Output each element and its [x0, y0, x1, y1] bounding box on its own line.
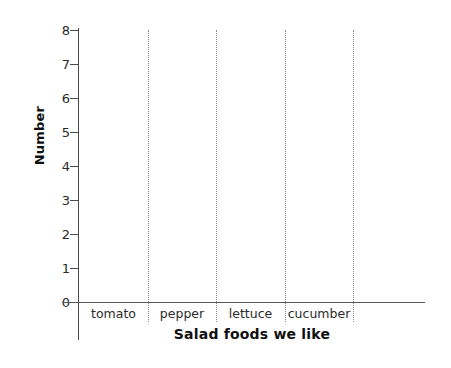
x-category-label-pepper: pepper [148, 305, 216, 323]
y-tick-7 [70, 64, 79, 65]
y-tick-label-8: 8 [48, 24, 70, 37]
y-tick-2 [70, 234, 79, 235]
y-tick-5 [70, 132, 79, 133]
gridline-1 [148, 30, 149, 322]
y-tick-label-1: 1 [48, 262, 70, 275]
y-tick-label-3: 3 [48, 194, 70, 207]
y-axis-line [78, 28, 79, 340]
y-tick-3 [70, 200, 79, 201]
y-tick-label-2: 2 [48, 228, 70, 241]
x-category-label-tomato: tomato [79, 305, 148, 323]
x-axis-title: Salad foods we like [79, 326, 425, 342]
gridline-4 [353, 30, 354, 322]
y-tick-label-5: 5 [48, 126, 70, 139]
gridline-2 [216, 30, 217, 322]
plot-area [79, 30, 425, 302]
bar-chart: 8 7 6 5 4 3 2 1 0 Number tomato pepper l… [0, 0, 451, 368]
y-tick-1 [70, 268, 79, 269]
y-tick-6 [70, 98, 79, 99]
y-tick-label-7: 7 [48, 58, 70, 71]
y-tick-4 [70, 166, 79, 167]
y-tick-label-6: 6 [48, 92, 70, 105]
gridline-3 [285, 30, 286, 322]
x-category-label-cucumber: cucumber [285, 305, 353, 323]
y-axis-title: Number [32, 106, 47, 165]
y-tick-8 [70, 30, 79, 31]
y-tick-label-4: 4 [48, 160, 70, 173]
x-category-labels: tomato pepper lettuce cucumber [79, 303, 425, 325]
x-category-label-lettuce: lettuce [216, 305, 285, 323]
